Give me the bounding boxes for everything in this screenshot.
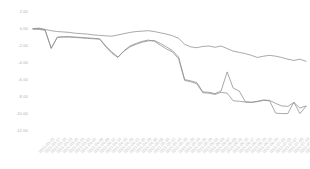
y-axis-tick-label: -6.00 xyxy=(0,78,28,82)
y-axis-tick-label: 2.00 xyxy=(0,10,28,14)
chart-line-series-3 xyxy=(33,29,306,108)
y-axis-tick-label: -8.00 xyxy=(0,95,28,99)
y-axis-tick-label: 0.00 xyxy=(0,27,28,31)
chart-line-series-1 xyxy=(33,28,306,61)
y-axis-tick-label: -12.00 xyxy=(0,129,28,133)
line-chart: 2.000.00-2.00-4.00-6.00-8.00-10.00-12.00… xyxy=(0,0,310,169)
chart-line-series-2 xyxy=(33,29,306,114)
y-axis-tick-label: -10.00 xyxy=(0,112,28,116)
y-axis-tick-label: -4.00 xyxy=(0,61,28,65)
series-layer xyxy=(33,28,306,113)
y-axis-tick-label: -2.00 xyxy=(0,44,28,48)
